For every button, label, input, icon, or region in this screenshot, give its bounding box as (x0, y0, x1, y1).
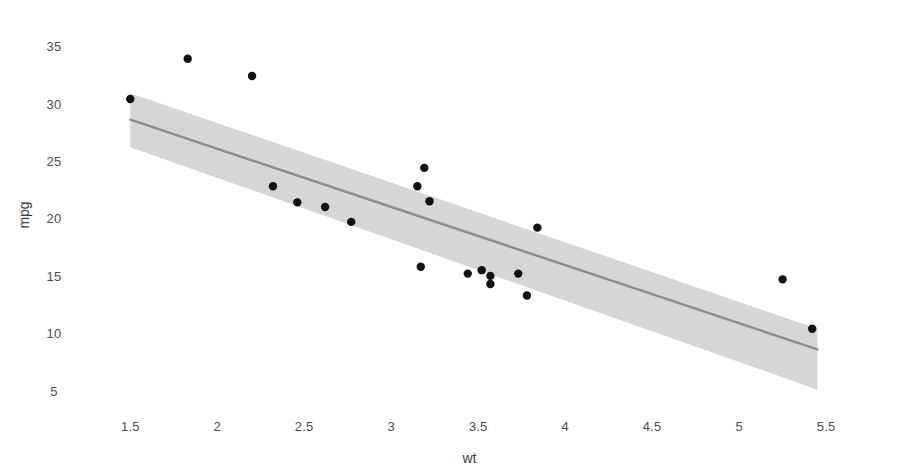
data-point (420, 164, 428, 172)
x-tick-label: 3.5 (469, 419, 488, 434)
data-point (321, 203, 329, 211)
x-tick-label: 2.5 (295, 419, 314, 434)
data-point (514, 269, 522, 277)
plot-canvas (0, 0, 899, 472)
data-point (425, 197, 433, 205)
regression-line-layer (130, 120, 817, 350)
data-point (533, 223, 541, 231)
y-tick-label: 5 (50, 383, 57, 398)
y-tick-label: 25 (47, 154, 62, 169)
scatter-plot-figure: 1.522.533.544.555.55101520253035 wt mpg (0, 0, 899, 472)
data-point (417, 263, 425, 271)
y-axis-title: mpg (16, 201, 32, 228)
y-tick-label: 30 (47, 96, 62, 111)
data-point (293, 198, 301, 206)
data-point (778, 275, 786, 283)
x-tick-label: 1.5 (121, 419, 140, 434)
data-point (486, 280, 494, 288)
data-point (248, 72, 256, 80)
x-tick-label: 5.5 (817, 419, 836, 434)
y-tick-label: 20 (47, 211, 62, 226)
y-tick-label: 35 (47, 39, 62, 54)
data-point (269, 182, 277, 190)
data-point (523, 291, 531, 299)
confidence-band-layer (130, 93, 817, 389)
y-tick-label: 15 (47, 268, 62, 283)
x-tick-label: 4 (561, 419, 568, 434)
confidence-interval-ribbon (130, 93, 817, 389)
data-point (808, 325, 816, 333)
data-point (126, 95, 134, 103)
data-point (347, 218, 355, 226)
data-point (464, 269, 472, 277)
data-points-layer (126, 55, 816, 333)
data-point (486, 272, 494, 280)
x-tick-label: 5 (735, 419, 742, 434)
x-tick-label: 2 (214, 419, 221, 434)
x-tick-label: 3 (387, 419, 394, 434)
data-point (413, 182, 421, 190)
regression-line (130, 120, 817, 350)
data-point (183, 55, 191, 63)
x-tick-label: 4.5 (643, 419, 662, 434)
x-axis-title: wt (463, 450, 477, 466)
y-tick-label: 10 (47, 326, 62, 341)
data-point (477, 266, 485, 274)
